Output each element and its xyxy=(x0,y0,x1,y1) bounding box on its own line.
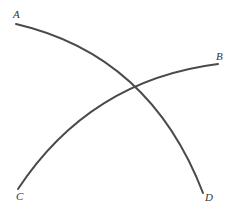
label-a: A xyxy=(12,8,20,20)
arc-c-to-b xyxy=(18,64,218,189)
arcs-diagram: A B C D xyxy=(0,0,233,209)
label-d: D xyxy=(204,191,213,203)
label-b: B xyxy=(216,50,223,62)
label-c: C xyxy=(16,190,24,202)
arc-a-to-d xyxy=(16,24,203,193)
